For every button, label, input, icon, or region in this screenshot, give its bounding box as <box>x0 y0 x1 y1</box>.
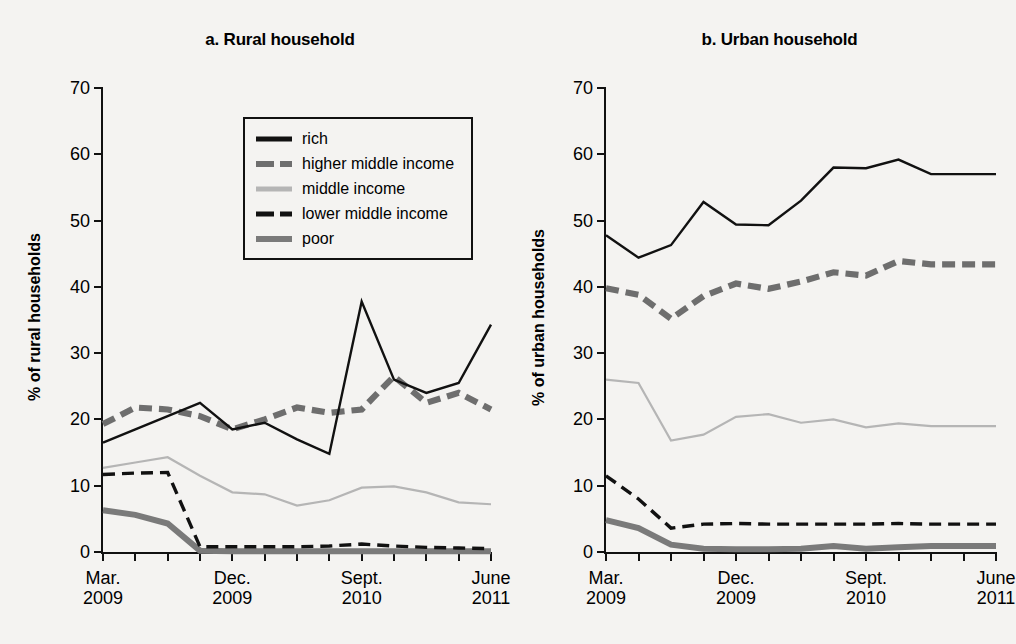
y-axis-tick-label: 40 <box>70 276 90 297</box>
x-axis-tick-label-year: 2009 <box>586 588 626 608</box>
x-axis-tick-label-year: 2009 <box>212 588 252 608</box>
y-axis-tick <box>94 485 103 487</box>
x-axis-tick-label-month: Dec. <box>214 568 251 588</box>
series-line-middle-income <box>103 457 491 505</box>
legend-item: lower middle income <box>255 201 463 226</box>
x-axis-tick-label-year: 2011 <box>976 588 1015 608</box>
series-line-higher-middle-income <box>606 261 996 319</box>
x-axis-tick <box>134 552 136 561</box>
x-axis-tick <box>605 552 607 561</box>
x-axis-tick-label: Mar.2009 <box>586 568 626 608</box>
legend-item-label: lower middle income <box>302 205 448 223</box>
y-axis-tick <box>597 153 606 155</box>
y-axis-tick-label: 60 <box>573 144 593 165</box>
legend-item: rich <box>255 126 463 151</box>
legend-item-label: poor <box>302 230 334 248</box>
x-axis-tick <box>865 552 867 561</box>
legend-item: poor <box>255 226 463 251</box>
x-axis-tick <box>930 552 932 561</box>
y-axis-label-urban: % of urban households <box>522 0 556 644</box>
legend-item: higher middle income <box>255 151 463 176</box>
y-axis-tick-label: 60 <box>70 144 90 165</box>
y-axis-tick <box>94 87 103 89</box>
x-axis-tick <box>833 552 835 561</box>
series-line-rich <box>606 160 996 258</box>
x-axis-tick-label: Dec.2009 <box>716 568 756 608</box>
series-line-rich <box>103 301 491 453</box>
series-line-poor <box>103 510 491 551</box>
y-axis-tick-label: 40 <box>573 276 593 297</box>
series-line-middle-income <box>606 380 996 441</box>
y-axis-tick <box>94 352 103 354</box>
x-axis-tick <box>638 552 640 561</box>
x-axis-tick-label-month: Mar. <box>588 568 623 588</box>
line-solid-black-icon <box>255 132 293 146</box>
y-axis-tick-label: 10 <box>70 475 90 496</box>
panel-urban-household: b. Urban household % of urban households… <box>506 0 1013 644</box>
x-axis-tick-label-year: 2009 <box>716 588 756 608</box>
y-axis-tick-label: 30 <box>573 343 593 364</box>
y-axis-tick <box>94 286 103 288</box>
series-layer <box>606 88 996 552</box>
y-axis-tick-label: 50 <box>573 210 593 231</box>
y-axis-tick <box>597 418 606 420</box>
x-axis-tick-label: Sept.2010 <box>341 568 383 608</box>
legend-item-label: middle income <box>302 180 405 198</box>
x-axis-tick <box>735 552 737 561</box>
x-axis-tick-label-month: June <box>471 568 510 588</box>
x-axis-tick <box>670 552 672 561</box>
legend-item-label: rich <box>302 130 328 148</box>
line-solid-lightgray-icon <box>255 182 293 196</box>
y-axis-tick <box>597 87 606 89</box>
y-axis-tick-label: 20 <box>70 409 90 430</box>
x-axis-tick-label-year: 2009 <box>83 588 123 608</box>
x-axis-tick-label: Mar.2009 <box>83 568 123 608</box>
x-axis-tick <box>898 552 900 561</box>
legend-item: middle income <box>255 176 463 201</box>
y-axis-tick-label: 70 <box>573 78 593 99</box>
y-axis-tick <box>597 352 606 354</box>
y-axis-tick <box>597 485 606 487</box>
line-solid-gray-icon <box>255 232 293 246</box>
x-axis-tick-label-month: Sept. <box>341 568 383 588</box>
y-axis-tick <box>597 286 606 288</box>
y-axis-tick <box>94 153 103 155</box>
x-axis-tick-label: June2011 <box>976 568 1015 608</box>
x-axis-tick <box>995 552 997 561</box>
y-axis-tick-label: 0 <box>583 542 593 563</box>
panel-rural-household: a. Rural household % of rural households… <box>0 0 506 644</box>
legend-item-label: higher middle income <box>302 155 454 173</box>
x-axis-tick-label-month: Mar. <box>85 568 120 588</box>
y-axis-label-rural: % of rural households <box>18 0 52 644</box>
legend-box: rich higher middle income middle income … <box>243 117 473 260</box>
x-axis-tick <box>768 552 770 561</box>
series-line-lower-middle-income <box>103 472 491 548</box>
x-axis-tick-label-month: Sept. <box>845 568 887 588</box>
x-axis-tick-label-year: 2010 <box>845 588 887 608</box>
y-axis-tick <box>597 220 606 222</box>
x-axis-tick-label: Sept.2010 <box>845 568 887 608</box>
x-axis-tick <box>167 552 169 561</box>
x-axis-tick <box>800 552 802 561</box>
y-axis-tick <box>94 220 103 222</box>
y-axis-tick-label: 70 <box>70 78 90 99</box>
x-axis-tick <box>102 552 104 561</box>
plot-area-urban: 010203040506070Mar.2009Dec.2009Sept.2010… <box>606 88 996 552</box>
line-dashed-black-icon <box>255 207 293 221</box>
y-axis-tick-label: 50 <box>70 210 90 231</box>
x-axis-tick-label-month: Dec. <box>717 568 754 588</box>
y-axis-tick-label: 30 <box>70 343 90 364</box>
line-dashed-gray-icon <box>255 157 293 171</box>
x-axis-tick-label: Dec.2009 <box>212 568 252 608</box>
y-axis-tick <box>94 418 103 420</box>
panel-title-rural: a. Rural household <box>0 30 506 50</box>
y-axis-tick-label: 20 <box>573 409 593 430</box>
x-axis-tick-label-month: June <box>976 568 1015 588</box>
series-line-higher-middle-income <box>103 376 491 429</box>
x-axis-tick <box>703 552 705 561</box>
x-axis-tick-label-year: 2010 <box>341 588 383 608</box>
x-axis-tick-label: June2011 <box>471 568 510 608</box>
y-axis-tick-label: 0 <box>80 542 90 563</box>
series-line-lower-middle-income <box>606 476 996 528</box>
